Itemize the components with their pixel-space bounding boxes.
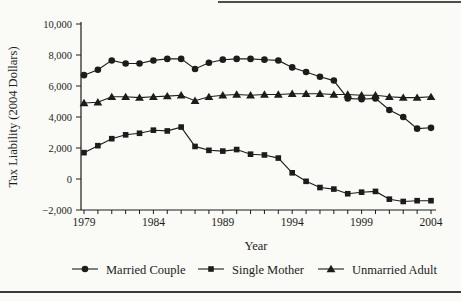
- marker-circle-married-couple: [178, 56, 185, 63]
- marker-circle-married-couple: [95, 66, 102, 73]
- y-tick-label: 0: [67, 174, 72, 185]
- y-tick-label: 6,000: [48, 81, 72, 92]
- marker-square-single-mother: [428, 198, 434, 204]
- legend-marker-circle: [82, 266, 89, 273]
- marker-circle-married-couple: [317, 73, 324, 80]
- marker-circle-married-couple: [122, 60, 129, 67]
- marker-square-single-mother: [387, 196, 393, 202]
- marker-square-single-mother: [262, 152, 268, 158]
- marker-square-single-mother: [206, 148, 212, 154]
- marker-triangle-unmarried-adult: [177, 91, 186, 98]
- marker-circle-married-couple: [136, 60, 143, 67]
- marker-square-single-mother: [317, 185, 323, 191]
- y-axis-title: Tax Liability (2004 Dollars): [6, 46, 20, 187]
- y-tick-label: 2,000: [48, 143, 72, 154]
- legend-label-married-couple: Married Couple: [106, 263, 186, 277]
- marker-square-single-mother: [192, 144, 198, 150]
- marker-square-single-mother: [123, 132, 129, 138]
- legend-label-unmarried-adult: Unmarried Adult: [352, 263, 438, 277]
- y-tick-label: 10,000: [43, 19, 72, 30]
- marker-circle-married-couple: [164, 56, 171, 63]
- marker-square-single-mother: [151, 127, 157, 133]
- marker-circle-married-couple: [400, 114, 407, 121]
- marker-square-single-mother: [178, 124, 184, 130]
- marker-square-single-mother: [289, 170, 295, 176]
- marker-square-single-mother: [303, 179, 309, 185]
- marker-square-single-mother: [276, 155, 282, 161]
- series-line-married-couple: [84, 59, 431, 129]
- y-axis-ticks: −2,00002,0004,0006,0008,00010,000: [42, 19, 81, 216]
- y-tick-label: −2,000: [42, 205, 72, 216]
- marker-triangle-unmarried-adult: [93, 98, 102, 105]
- x-tick-label: 1984: [142, 216, 165, 228]
- figure-page: −2,00002,0004,0006,0008,00010,000 197919…: [0, 0, 461, 301]
- marker-square-single-mother: [414, 198, 420, 204]
- marker-square-single-mother: [400, 199, 406, 205]
- series-lines: [84, 59, 431, 202]
- x-axis-ticks: 197919841989199419992004: [73, 210, 443, 228]
- y-tick-label: 8,000: [48, 50, 72, 61]
- legend-label-single-mother: Single Mother: [232, 263, 305, 277]
- x-tick-label: 1979: [73, 216, 96, 228]
- marker-square-single-mother: [359, 189, 365, 195]
- marker-square-single-mother: [95, 143, 101, 149]
- marker-circle-married-couple: [303, 69, 310, 76]
- legend-marker-square: [208, 266, 214, 272]
- marker-circle-married-couple: [289, 64, 296, 71]
- marker-circle-married-couple: [428, 125, 435, 132]
- marker-circle-married-couple: [247, 56, 254, 63]
- bottom-page-rule: [0, 291, 461, 293]
- marker-circle-married-couple: [220, 56, 227, 63]
- series-markers: [80, 56, 436, 205]
- marker-square-single-mother: [331, 186, 337, 192]
- x-tick-label: 1994: [281, 216, 304, 228]
- x-tick-label: 1999: [350, 216, 373, 228]
- marker-circle-married-couple: [414, 125, 421, 132]
- tax-liability-chart: −2,00002,0004,0006,0008,00010,000 197919…: [0, 0, 461, 301]
- marker-square-single-mother: [345, 191, 351, 197]
- marker-square-single-mother: [81, 150, 87, 156]
- marker-circle-married-couple: [331, 77, 338, 84]
- marker-triangle-unmarried-adult: [427, 93, 436, 100]
- marker-circle-married-couple: [261, 56, 268, 63]
- x-tick-label: 1989: [211, 216, 234, 228]
- marker-square-single-mother: [220, 148, 226, 154]
- axes: [81, 22, 436, 210]
- marker-square-single-mother: [248, 151, 254, 157]
- marker-circle-married-couple: [81, 72, 88, 79]
- marker-circle-married-couple: [275, 57, 282, 64]
- marker-circle-married-couple: [150, 57, 157, 64]
- marker-square-single-mother: [137, 130, 143, 136]
- marker-circle-married-couple: [206, 59, 213, 66]
- marker-circle-married-couple: [233, 56, 240, 63]
- marker-circle-married-couple: [192, 66, 199, 73]
- marker-square-single-mother: [373, 189, 379, 195]
- x-tick-label: 2004: [420, 216, 443, 228]
- marker-square-single-mother: [234, 147, 240, 153]
- marker-square-single-mother: [164, 128, 170, 134]
- marker-circle-married-couple: [108, 57, 115, 64]
- marker-square-single-mother: [109, 136, 115, 142]
- series-line-single-mother: [84, 127, 431, 201]
- y-tick-label: 4,000: [48, 112, 72, 123]
- marker-triangle-unmarried-adult: [232, 90, 241, 97]
- x-axis-title: Year: [244, 239, 268, 253]
- marker-circle-married-couple: [386, 107, 393, 114]
